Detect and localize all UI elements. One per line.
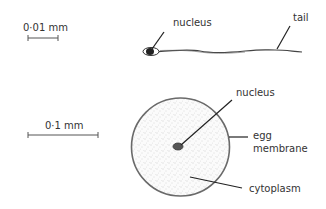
sperm-scale-label: 0·01 mm xyxy=(23,22,68,33)
egg-scale-bar xyxy=(28,132,98,138)
egg-membrane-label-line1: egg xyxy=(253,130,272,141)
egg-nucleus-label: nucleus xyxy=(236,87,275,98)
sperm-tail-label: tail xyxy=(293,12,309,23)
sperm-cell xyxy=(143,26,302,56)
egg-cell xyxy=(132,98,249,196)
cytoplasm-label: cytoplasm xyxy=(249,183,301,194)
sperm-nucleus-pointer xyxy=(152,32,164,49)
egg-membrane-label-line2: membrane xyxy=(253,143,308,154)
sperm-nucleus xyxy=(146,48,154,55)
sperm-scale-bar xyxy=(28,35,58,41)
sperm-nucleus-label: nucleus xyxy=(173,17,212,28)
sperm-tail-pointer xyxy=(277,26,290,49)
egg-scale-label: 0·1 mm xyxy=(45,120,84,131)
